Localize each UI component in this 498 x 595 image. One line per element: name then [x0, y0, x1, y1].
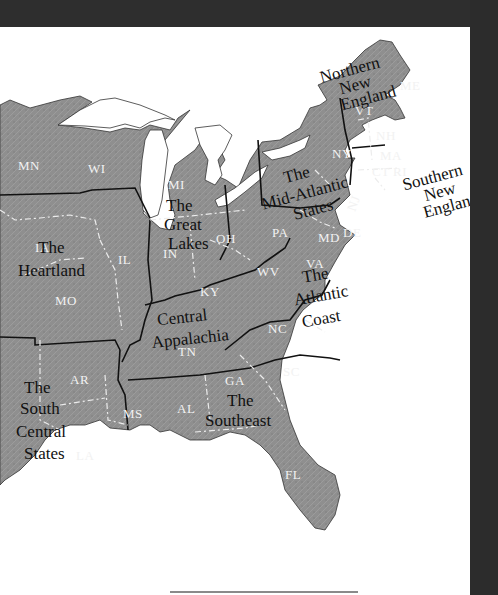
state-label-ms: MS	[123, 406, 143, 421]
state-label-mi: MI	[168, 177, 185, 192]
state-label-sc: SC	[283, 364, 300, 379]
state-label-ny: NY	[332, 146, 352, 161]
state-label-ga: GA	[225, 373, 245, 388]
right-frame-strip	[470, 0, 498, 595]
state-label-fl: FL	[285, 467, 301, 482]
state-label-al: AL	[177, 401, 195, 416]
state-label-mn: MN	[18, 158, 40, 173]
state-label-ma: MA	[380, 148, 402, 163]
state-label-wv: WV	[257, 264, 280, 279]
state-label-me: ME	[400, 78, 421, 93]
state-label-il: IL	[118, 252, 131, 267]
state-label-ct: CT	[372, 164, 390, 179]
region-label-southern-new-england: Southern New England	[400, 158, 470, 225]
state-label-de: DE	[343, 225, 361, 240]
state-label-la: LA	[76, 448, 94, 463]
state-label-nc: NC	[268, 321, 287, 336]
state-label-oh: OH	[216, 231, 236, 246]
eastern-us-map: MN WI MI IA IL IN OH MO KY WV VA NC TN A…	[0, 27, 470, 595]
state-label-ar: AR	[70, 372, 89, 387]
state-label-pa: PA	[272, 225, 289, 240]
map-page: MN WI MI IA IL IN OH MO KY WV VA NC TN A…	[0, 27, 470, 595]
state-label-ky: KY	[200, 284, 220, 299]
state-label-nh: NH	[376, 128, 396, 143]
state-label-mo: MO	[55, 293, 77, 308]
state-label-wi: WI	[88, 161, 106, 176]
state-label-md: MD	[318, 230, 340, 245]
bottom-divider	[170, 591, 358, 593]
